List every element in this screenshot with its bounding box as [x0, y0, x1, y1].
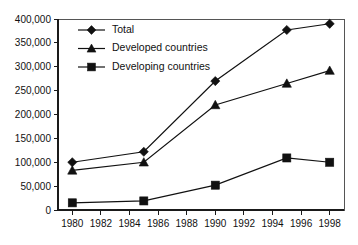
square-marker-icon — [140, 197, 148, 205]
triangle-marker-icon — [325, 66, 334, 74]
series-developing-countries — [68, 154, 333, 207]
legend-item-label: Developed countries — [112, 41, 208, 53]
square-marker-icon — [88, 63, 96, 71]
y-tick-label: 150,000 — [15, 133, 52, 144]
x-tick-label: 1986 — [147, 218, 170, 229]
x-tick-label: 1988 — [176, 218, 199, 229]
legend-item-developed-countries: Developed countries — [78, 41, 208, 53]
y-tick-label: 400,000 — [15, 14, 52, 25]
x-tick-label: 1982 — [90, 218, 113, 229]
y-tick-label: 300,000 — [15, 61, 52, 72]
y-tick-label: 250,000 — [15, 85, 52, 96]
series-line — [72, 158, 329, 203]
legend-item-label: Developing countries — [112, 60, 210, 72]
line-chart-figure: 050,000100,000150,000200,000250,000300,0… — [0, 0, 358, 245]
x-tick-label: 1992 — [233, 218, 256, 229]
square-marker-icon — [283, 154, 291, 162]
y-tick-label: 100,000 — [15, 157, 52, 168]
square-marker-icon — [68, 199, 76, 207]
chart-canvas: 050,000100,000150,000200,000250,000300,0… — [0, 0, 358, 245]
diamond-marker-icon — [87, 26, 96, 35]
x-tick-label: 1994 — [261, 218, 284, 229]
diamond-marker-icon — [325, 19, 334, 28]
legend-item-total: Total — [78, 23, 134, 35]
legend-item-developing-countries: Developing countries — [78, 60, 210, 72]
y-tick-label: 350,000 — [15, 37, 52, 48]
y-tick-label: 50,000 — [20, 181, 51, 192]
square-marker-icon — [211, 181, 219, 189]
x-tick-label: 1998 — [319, 218, 342, 229]
x-tick-label: 1996 — [290, 218, 313, 229]
square-marker-icon — [326, 158, 334, 166]
legend-item-label: Total — [112, 23, 134, 35]
series-developed-countries — [68, 66, 335, 174]
y-tick-label: 0 — [45, 205, 51, 216]
y-tick-label: 200,000 — [15, 109, 52, 120]
diamond-marker-icon — [282, 25, 291, 34]
x-tick-label: 1990 — [204, 218, 227, 229]
x-axis-ticks: 1980198219841986198819901992199419961998 — [61, 210, 341, 229]
x-tick-label: 1980 — [61, 218, 84, 229]
y-axis-ticks: 050,000100,000150,000200,000250,000300,0… — [15, 14, 58, 216]
x-tick-label: 1984 — [118, 218, 141, 229]
chart-legend: TotalDeveloped countriesDeveloping count… — [78, 23, 210, 72]
